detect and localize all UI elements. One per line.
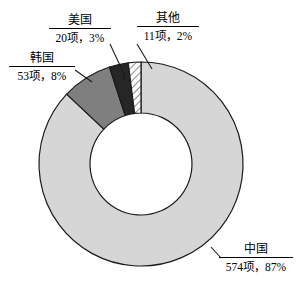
callout-usa-rule	[49, 28, 111, 29]
callout-china-value: 574项，87%	[224, 260, 288, 273]
callout-other-category: 其他	[150, 12, 187, 26]
callout-other-value: 11项，2%	[142, 29, 194, 42]
callout-usa-value: 20项，3%	[54, 31, 107, 44]
callout-korea-value: 53项，8%	[16, 69, 69, 82]
callout-other: 其他 11项，2%	[137, 9, 199, 44]
callout-usa: 美国 20项，3%	[49, 11, 111, 46]
callout-china: 中国 574项，87%	[219, 240, 293, 275]
callout-korea-rule	[9, 66, 75, 67]
callout-other-rule	[137, 26, 199, 27]
callout-korea-category: 韩国	[24, 52, 61, 66]
callout-usa-category: 美国	[62, 14, 99, 28]
callout-china-rule	[219, 257, 293, 258]
donut-chart: 美国 20项，3% 其他 11项，2% 韩国 53项，8% 中国 574项，87…	[0, 0, 304, 286]
ring-slices	[39, 62, 243, 266]
callout-china-category: 中国	[238, 243, 275, 257]
callout-korea: 韩国 53项，8%	[9, 49, 75, 84]
